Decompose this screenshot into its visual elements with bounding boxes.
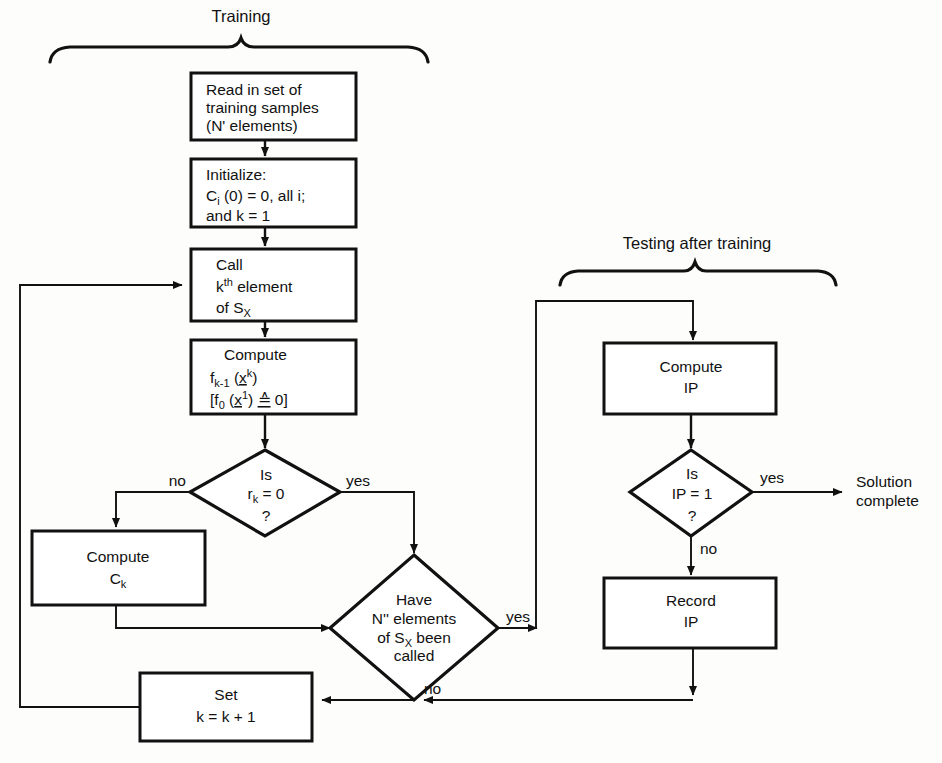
node-setk-line-2: k = k + 1 [196,708,255,725]
node-recordip-line-2: IP [684,613,699,630]
decision-ip-label-no: no [700,540,717,557]
node-compute-f[interactable]: Compute fk-1 (xk) [f0 (x1) ≙ 0] [191,340,356,414]
node-read-line-3: (N' elements) [206,117,298,134]
edge-rk-yes-to-have [340,492,414,553]
node-initialize-line-3: and k = 1 [206,207,270,224]
decision-rk-line-1: Is [260,466,272,483]
node-computeip-line-2: IP [684,379,699,396]
node-compute-ip[interactable]: Compute IP [604,343,776,414]
node-recordip-line-1: Record [666,592,716,609]
node-compute-ck[interactable]: Compute Ck [32,531,205,605]
node-computeip-line-1: Compute [660,358,723,375]
decision-ip-label-yes: yes [760,469,784,486]
node-record-ip[interactable]: Record IP [604,578,776,648]
node-read-training-samples[interactable]: Read in set of training samples (N' elem… [191,73,356,140]
decision-rk-line-3: ? [262,507,271,524]
node-computef-line-1: Compute [224,346,287,363]
training-section-brace [50,38,428,62]
node-initialize[interactable]: Initialize: Ci (0) = 0, all i; and k = 1 [191,159,356,227]
decision-ip-line-3: ? [688,507,697,524]
node-read-line-2: training samples [206,99,319,116]
decision-have-line-4: called [394,647,435,664]
node-call-line-1: Call [216,256,243,273]
node-decision-ip[interactable]: Is IP = 1 ? [630,450,752,536]
node-solution-complete: Solution complete [856,473,919,509]
decision-rk-label-no: no [169,472,186,489]
node-setk-line-1: Set [214,686,238,703]
init-c: C [206,187,217,204]
decision-rk-label-yes: yes [346,472,370,489]
testing-section-label: Testing after training [623,234,772,252]
node-computeck-line-1: Compute [87,548,150,565]
edge-setk-to-call-loop [20,285,182,707]
node-call-kth-element[interactable]: Call kth element of SX [191,249,356,321]
init-rest: (0) = 0, all i; [220,187,306,204]
node-set-k[interactable]: Set k = k + 1 [140,673,312,741]
flowchart-canvas: Training Testing after training Read in … [0,0,942,763]
node-decision-have-elements[interactable]: Have N'' elements of SX been called [330,555,498,700]
training-section-label: Training [212,7,271,25]
decision-have-label-yes: yes [506,608,530,625]
decision-ip-line-1: Is [686,465,698,482]
node-read-line-1: Read in set of [206,81,302,98]
node-initialize-line-1: Initialize: [206,166,266,183]
decision-have-line-2: N'' elements [372,610,457,627]
edge-rk-no-to-computeck [116,492,190,527]
edge-computeck-to-have [116,605,330,628]
decision-have-line-1: Have [396,591,432,608]
solution-line-2: complete [856,492,919,509]
solution-line-1: Solution [856,473,912,490]
testing-section-brace [560,262,836,285]
flowchart-page: Training Testing after training Read in … [0,0,942,763]
decision-have-label-no: no [424,680,441,697]
decision-ip-line-2: IP = 1 [672,485,713,502]
node-decision-rk[interactable]: Is rk = 0 ? [190,450,340,536]
